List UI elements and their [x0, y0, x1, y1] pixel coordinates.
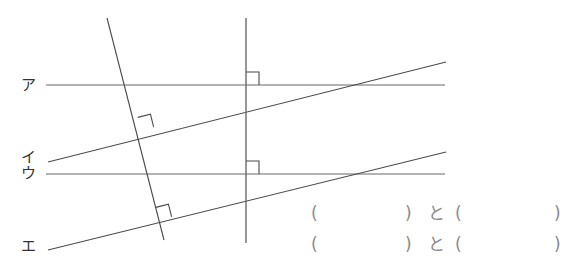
answer-conjunction: と — [428, 203, 445, 223]
label-u: ウ — [21, 166, 36, 181]
line-steep — [107, 18, 164, 240]
answer-blanks-area: ( ) と ( ) ( ) と ( ) — [305, 203, 575, 265]
line-i-slanted — [48, 62, 446, 162]
answer-row: ( ) と ( ) — [305, 203, 575, 234]
label-a: ア — [21, 78, 36, 93]
right-angle-mark-vertical-a — [246, 72, 259, 85]
right-angle-marks-group — [138, 72, 259, 220]
answer-paren-open: ( — [311, 203, 318, 223]
right-angle-mark-vertical-u — [246, 161, 259, 174]
answer-paren-open: ( — [455, 234, 462, 254]
answer-row: ( ) と ( ) — [305, 234, 575, 265]
answer-paren-close: ) — [554, 203, 561, 223]
answer-paren-open: ( — [455, 203, 462, 223]
answer-conjunction: と — [428, 234, 445, 254]
label-e: エ — [21, 239, 36, 254]
answer-paren-close: ) — [405, 234, 412, 254]
label-i: イ — [21, 150, 36, 165]
answer-paren-open: ( — [311, 234, 318, 254]
right-angle-mark-steep-i — [138, 114, 154, 130]
worksheet-page: アイウエ ( ) と ( ) ( ) と ( ) — [0, 0, 587, 276]
answer-paren-close: ) — [405, 203, 412, 223]
answer-paren-close: ) — [554, 234, 561, 254]
